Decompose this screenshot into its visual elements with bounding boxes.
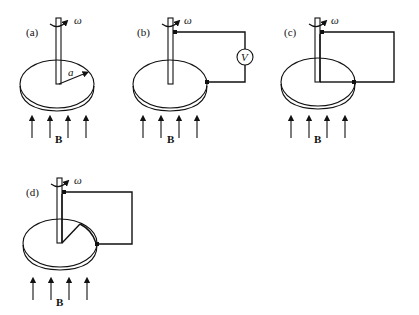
panel-label: (b) [137, 26, 150, 39]
radial-wire [62, 224, 80, 243]
wire [177, 32, 245, 49]
omega-label: ω [74, 174, 82, 186]
wire [322, 32, 394, 82]
omega-label: ω [74, 14, 82, 26]
rim-contact [95, 242, 99, 246]
disk-edge [20, 86, 94, 111]
rim-contact [352, 80, 356, 84]
field-label: B [55, 133, 63, 145]
rotation-arrow-icon [51, 182, 67, 187]
brush-contact [173, 30, 177, 34]
field-label: B [56, 296, 64, 308]
omega-label: ω [331, 14, 339, 26]
rotation-arrow-icon [162, 22, 178, 27]
panel-b: (b) ω V B [133, 14, 253, 145]
axle [315, 18, 320, 82]
omega-label: ω [184, 14, 192, 26]
axle [56, 18, 61, 84]
voltmeter-label: V [241, 51, 249, 63]
rotation-arrow-icon [309, 22, 325, 27]
wire [208, 65, 245, 82]
field-label: B [314, 133, 322, 145]
panel-d: (d) ω B [23, 174, 132, 308]
panel-label: (a) [26, 26, 39, 39]
disk-edge [133, 86, 207, 111]
panel-label: (d) [26, 186, 39, 199]
figure-canvas: (a) ω a B (b) ω V B [0, 0, 419, 315]
rim-contact [205, 80, 209, 84]
panel-c: (c) ω B [281, 14, 394, 145]
panel-label: (c) [284, 26, 297, 39]
axle [168, 18, 173, 84]
disk-edge [23, 245, 97, 270]
axle [57, 178, 62, 243]
rotation-arrow-icon [50, 22, 66, 27]
radius-label: a [68, 66, 74, 78]
disk-edge [281, 84, 355, 109]
wire [64, 192, 132, 244]
panel-a: (a) ω a B [20, 14, 94, 145]
field-label: B [167, 133, 175, 145]
